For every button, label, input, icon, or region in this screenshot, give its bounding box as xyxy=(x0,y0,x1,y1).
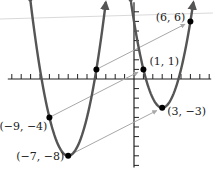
point-label: (−9, −4) xyxy=(0,120,47,133)
points xyxy=(46,18,193,158)
point-label: (3, −3) xyxy=(167,105,206,118)
axes xyxy=(8,2,211,167)
point-label: (6, 6) xyxy=(156,11,186,24)
translated-parabolas-diagram: (−9, −4)(−7, −8)(1, 1)(3, −3)(6, 6) xyxy=(0,0,213,170)
data-point xyxy=(159,105,165,111)
data-point xyxy=(93,66,99,72)
translation-arrows xyxy=(49,24,185,156)
point-label: (1, 1) xyxy=(149,55,179,68)
data-point xyxy=(140,66,146,72)
data-point xyxy=(187,18,193,24)
data-point xyxy=(65,153,71,159)
point-label: (−7, −8) xyxy=(16,150,64,163)
